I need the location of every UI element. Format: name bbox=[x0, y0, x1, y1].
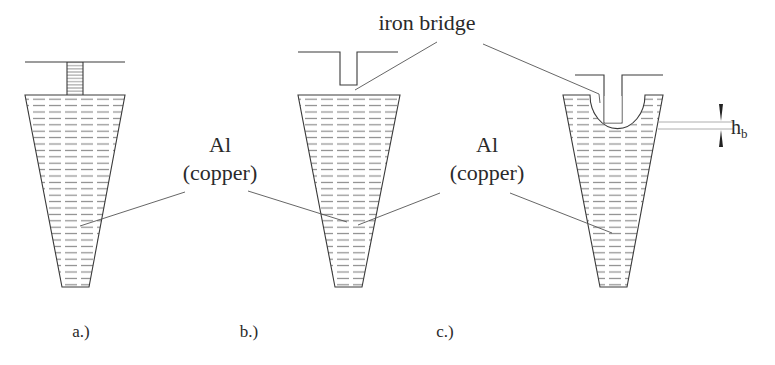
panel-c-crucible bbox=[563, 95, 663, 287]
right-material-label-line2: (copper) bbox=[450, 160, 525, 185]
height-label-main: h bbox=[731, 116, 741, 138]
right-material-label-line1: Al bbox=[476, 132, 498, 157]
panel-a-crucible bbox=[25, 95, 125, 287]
height-dimension bbox=[658, 104, 733, 147]
height-label: hb bbox=[731, 116, 748, 141]
panel-c-bridge-leader bbox=[483, 44, 599, 94]
left-material-label-line1: Al bbox=[209, 132, 231, 157]
panel-b bbox=[248, 42, 440, 287]
panel-b-iron-bridge bbox=[298, 52, 398, 85]
left-material-label-line2: (copper) bbox=[183, 160, 258, 185]
caption-c: c.) bbox=[436, 322, 453, 341]
caption-b: b.) bbox=[240, 322, 258, 341]
caption-a: a.) bbox=[72, 322, 89, 341]
arrow-up-icon bbox=[719, 130, 723, 147]
bridge-label: iron bridge bbox=[378, 10, 475, 35]
panel-b-bridge-leader bbox=[355, 42, 437, 90]
height-label-sub: b bbox=[741, 126, 748, 141]
panel-b-crucible bbox=[298, 95, 400, 287]
diagram-canvas: iron bridge Al (copper) Al (copper) hb a… bbox=[0, 0, 775, 365]
panel-a-stem bbox=[67, 62, 83, 95]
panel-a bbox=[25, 62, 185, 287]
arrow-down-icon bbox=[719, 104, 723, 121]
